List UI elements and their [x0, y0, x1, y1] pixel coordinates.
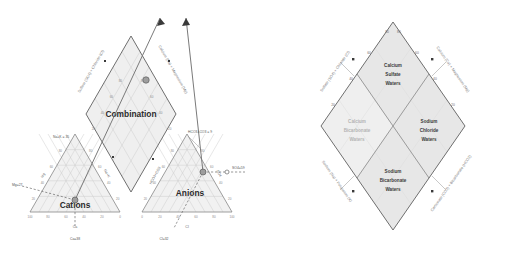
- annot-cl: Cl=32: [160, 237, 169, 241]
- cation-right-axis-label: Na+K: [103, 169, 111, 179]
- zone-cs-line-0: Calcium: [384, 63, 402, 68]
- zone-cb-line-1: Bicarbonate: [344, 128, 371, 133]
- key-lr-leader: [432, 176, 446, 190]
- anion-bottom-ticks: 0 20 40 60 80 100: [141, 215, 235, 219]
- anion-right-tick-2: 60: [210, 165, 214, 169]
- zone-cb-line-0: Calcium: [348, 119, 366, 124]
- zone-sb-line-0: Sodium: [385, 169, 402, 174]
- cation-tick-4: 20: [100, 215, 104, 219]
- zone-label-sodium-chloride-waters: Sodium Chloride Waters: [420, 119, 439, 142]
- cation-left-tick-1: 40: [41, 181, 45, 185]
- cation-tick-3: 40: [82, 215, 86, 219]
- key-axis-label-upper-left: Sulfate (SO4) + Chloride (Cl): [320, 50, 352, 93]
- cation-left-axis-label: Mg: [40, 172, 46, 178]
- dia-ur-tick-1: 40: [159, 111, 163, 115]
- cation-right-tick-3: 80: [89, 149, 93, 153]
- anion-tick-4: 80: [212, 215, 216, 219]
- anion-tick-2: 40: [176, 215, 180, 219]
- anions-title: Anions: [176, 188, 205, 198]
- key-ur-marker: [431, 58, 433, 60]
- annot-hco3-co3: HCO3+CO3 = 9: [188, 130, 212, 134]
- projection-right-arrowhead: [182, 18, 190, 26]
- zone-sc-line-1: Chloride: [420, 128, 439, 133]
- cation-bottom-ticks: 100 80 60 40 20 0: [27, 215, 121, 219]
- sample-piper-svg: 100 80 60 40 20 0 Ca 20 40 60 80 Mg: [0, 0, 262, 254]
- anion-right-tick-0: 20: [228, 197, 232, 201]
- cation-right-tick-0: 20: [116, 197, 120, 201]
- dia-ul-tick-3: 80: [119, 79, 123, 83]
- anion-right-tick-1: 40: [219, 181, 223, 185]
- cation-sample-point: [72, 197, 78, 203]
- diamond-right-axis-marker: [168, 60, 170, 62]
- zone-sc-line-2: Waters: [421, 137, 437, 142]
- so4-readout-point: [225, 170, 229, 174]
- key-ul-marker: [352, 58, 354, 60]
- zone-sc-line-0: Sodium: [421, 119, 438, 124]
- cation-right-tick-1: 40: [107, 181, 111, 185]
- anion-bottom-axis-label: Cl: [185, 225, 189, 229]
- water-type-key-svg: 20 40 60 80 20 40 60 80 Sulfate (SO4) + …: [262, 0, 524, 254]
- anion-axis-marker: [152, 158, 154, 160]
- key-ur-tick-0: 20: [451, 103, 455, 107]
- anion-tick-0: 0: [141, 215, 143, 219]
- cation-tick-5: 0: [119, 215, 121, 219]
- key-ul-tick-3: 80: [385, 30, 389, 34]
- dia-ul-tick-1: 40: [101, 111, 105, 115]
- key-ll-marker: [352, 190, 354, 192]
- key-diamond: 20 40 60 80 20 40 60 80 Sulfate (SO4) + …: [320, 22, 473, 230]
- dia-ul-tick-0: 20: [92, 127, 96, 131]
- zone-cb-line-2: Waters: [349, 137, 365, 142]
- cation-left-tick-2: 60: [50, 165, 54, 169]
- zone-sb-line-2: Waters: [385, 187, 401, 192]
- anion-tick-5: 100: [229, 215, 234, 219]
- diamond-right-axis-label: Calcium (Ca) + Magnesium (Mg): [157, 45, 188, 95]
- anion-tick-1: 20: [158, 215, 162, 219]
- key-ul-tick-1: 40: [349, 77, 353, 81]
- zone-cs-line-1: Sulfate: [385, 72, 401, 77]
- key-ur-leader: [432, 62, 446, 76]
- key-ul-tick-2: 60: [367, 51, 371, 55]
- annot-mg: Mg=27: [12, 183, 23, 187]
- cation-tick-1: 80: [46, 215, 50, 219]
- diamond-left-axis-marker: [104, 60, 106, 62]
- cation-left-tick-0: 20: [32, 197, 36, 201]
- anion-left-tick-0: 20: [144, 197, 148, 201]
- cation-tick-2: 60: [64, 215, 68, 219]
- cation-axis-marker: [112, 156, 114, 158]
- dia-ur-tick-0: 20: [168, 127, 172, 131]
- anion-tick-3: 60: [194, 215, 198, 219]
- dia-ur-tick-2: 60: [150, 95, 154, 99]
- key-ur-tick-1: 40: [433, 77, 437, 81]
- panel-water-type-key: 20 40 60 80 20 40 60 80 Sulfate (SO4) + …: [262, 0, 524, 254]
- cation-left-tick-3: 80: [59, 149, 63, 153]
- figure-root: 100 80 60 40 20 0 Ca 20 40 60 80 Mg: [0, 0, 524, 254]
- key-ur-tick-3: 80: [397, 30, 401, 34]
- cation-right-tick-2: 60: [98, 165, 102, 169]
- zone-cs-line-2: Waters: [385, 81, 401, 86]
- key-axis-label-upper-right: Calcium (Ca) + Magnesium (Mg): [435, 46, 470, 94]
- annot-na-k: Na+K = 35: [53, 135, 69, 139]
- key-ul-tick-0: 20: [331, 103, 335, 107]
- dia-ul-tick-2: 60: [110, 95, 114, 99]
- key-lr-marker: [431, 190, 433, 192]
- anion-right-axis-label: SO4: [215, 169, 222, 177]
- cation-tick-0: 100: [27, 215, 32, 219]
- panel-sample-plot: 100 80 60 40 20 0 Ca 20 40 60 80 Mg: [0, 0, 262, 254]
- zone-sb-line-1: Bicarbonate: [380, 178, 407, 183]
- anion-left-tick-3: 80: [171, 149, 175, 153]
- annot-so4: SO4=59: [232, 166, 245, 170]
- anion-right-tick-3: 80: [201, 149, 205, 153]
- annot-ca: Ca=38: [70, 237, 80, 241]
- zone-label-calcium-sulfate-waters: Calcium Sulfate Waters: [384, 63, 402, 86]
- diamond-sample-point: [143, 77, 149, 83]
- anion-sample-point: [200, 169, 206, 175]
- anion-left-tick-2: 60: [162, 165, 166, 169]
- key-ur-tick-2: 60: [415, 51, 419, 55]
